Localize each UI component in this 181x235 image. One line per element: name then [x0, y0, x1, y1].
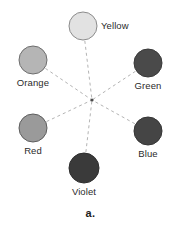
- color-node-label-blue: Blue: [138, 149, 157, 159]
- color-node-yellow[interactable]: [69, 12, 97, 40]
- color-node-green[interactable]: [134, 49, 162, 77]
- color-node-label-violet: Violet: [72, 187, 96, 197]
- color-node-red[interactable]: [19, 114, 47, 142]
- connector-line-green-red: [47, 100, 92, 122]
- color-node-label-red: Red: [24, 146, 42, 156]
- color-node-blue[interactable]: [134, 117, 162, 145]
- color-node-label-orange: Orange: [17, 78, 49, 88]
- connector-line-yellow-violet: [86, 100, 92, 152]
- connector-line-yellow-violet: [85, 41, 92, 100]
- connector-line-orange-blue: [45, 68, 92, 100]
- figure-caption: a.: [0, 207, 181, 219]
- color-wheel-diagram: YellowOrangeGreenRedBlueViolet: [0, 0, 181, 205]
- center-intersection-point: [90, 98, 93, 101]
- color-node-label-green: Green: [135, 81, 162, 91]
- color-wheel-svg: [0, 0, 181, 205]
- color-node-label-yellow: Yellow: [101, 21, 129, 31]
- connector-line-green-red: [92, 71, 135, 100]
- connector-line-orange-blue: [92, 100, 135, 124]
- connector-lines-group: [45, 41, 135, 152]
- color-node-orange[interactable]: [19, 46, 47, 74]
- color-node-violet[interactable]: [69, 153, 99, 183]
- color-wheel-figure: YellowOrangeGreenRedBlueViolet a.: [0, 0, 181, 235]
- center-point-group: [90, 98, 93, 101]
